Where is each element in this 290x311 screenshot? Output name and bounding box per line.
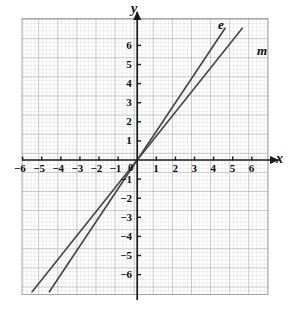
y-tick-label: 1 bbox=[126, 135, 132, 146]
x-tick-label: −4 bbox=[52, 163, 64, 174]
x-axis-label: x bbox=[276, 152, 283, 166]
y-tick-label: −3 bbox=[120, 212, 132, 223]
y-tick-label: 4 bbox=[126, 78, 132, 89]
x-tick-label: 6 bbox=[249, 163, 255, 174]
y-tick-label: 5 bbox=[126, 59, 132, 70]
x-tick-label: 4 bbox=[211, 163, 217, 174]
y-tick-label: −4 bbox=[120, 231, 132, 242]
y-tick-label: 6 bbox=[126, 40, 132, 51]
y-axis-label: y bbox=[131, 2, 137, 16]
y-tick-label: −1 bbox=[120, 174, 132, 185]
y-tick-label: −6 bbox=[120, 269, 132, 280]
x-tick-label: −6 bbox=[14, 163, 26, 174]
x-tick-label: 5 bbox=[230, 163, 236, 174]
x-tick-label: 2 bbox=[172, 163, 178, 174]
x-tick-label: 1 bbox=[153, 163, 159, 174]
y-tick-label: −5 bbox=[120, 250, 132, 261]
line-label-m: m bbox=[257, 44, 267, 57]
line-label-e: e bbox=[218, 18, 224, 31]
graph-figure: x y e m 0 −6−5−4−3−2−1123456 654321−1−2−… bbox=[0, 0, 290, 311]
x-tick-label: −5 bbox=[33, 163, 45, 174]
x-tick-label: −2 bbox=[91, 163, 103, 174]
x-tick-label: 3 bbox=[192, 163, 198, 174]
y-tick-label: −2 bbox=[120, 193, 132, 204]
grid-background bbox=[22, 19, 268, 295]
x-tick-label: −3 bbox=[71, 163, 83, 174]
y-tick-label: 2 bbox=[126, 116, 132, 127]
origin-label: 0 bbox=[128, 162, 134, 173]
y-tick-label: 3 bbox=[126, 97, 132, 108]
coordinate-plane-svg bbox=[0, 0, 290, 311]
